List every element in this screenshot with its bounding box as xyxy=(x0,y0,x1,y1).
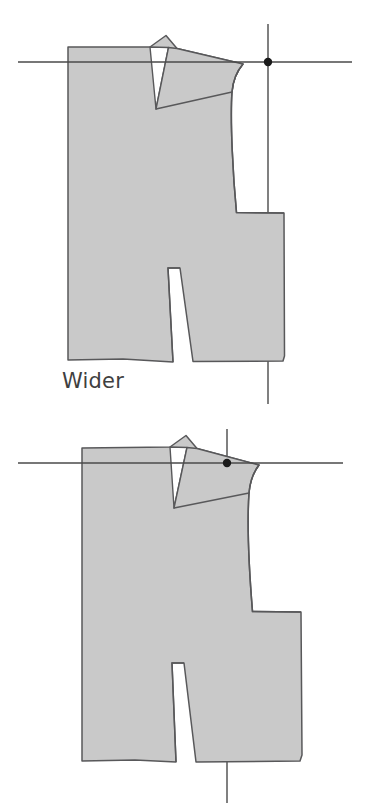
armhole-curve xyxy=(248,465,301,612)
shoulder-point-marker xyxy=(264,58,272,66)
diagram-page: Wider Narrower xyxy=(0,0,367,809)
figure-wider: Wider xyxy=(0,0,367,405)
narrower-pattern-svg xyxy=(0,405,367,809)
shoulder-point-marker xyxy=(223,459,231,467)
figure-narrower: Narrower xyxy=(0,405,367,809)
caption-wider: Wider xyxy=(62,371,124,392)
wider-pattern-svg xyxy=(0,0,367,405)
armhole-curve xyxy=(231,64,284,213)
